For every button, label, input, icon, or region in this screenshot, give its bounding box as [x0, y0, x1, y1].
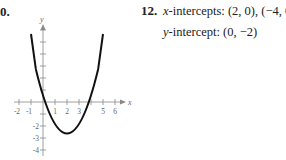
x-axis-arrow-icon: [120, 100, 126, 105]
parabola-chart: x y -2-1 12 35 6 -2-3-4: [0, 0, 286, 160]
parabola-curve: [36, 34, 103, 133]
svg-text:6: 6: [113, 107, 117, 116]
x-axis-label: x: [127, 98, 132, 107]
svg-text:1: 1: [53, 107, 57, 116]
axes: [14, 26, 120, 156]
y-axis-arrow-icon: [41, 24, 46, 30]
svg-text:-2: -2: [14, 107, 20, 116]
svg-text:5: 5: [101, 107, 105, 116]
x-tick-labels: -2-1 12 35 6: [14, 107, 117, 116]
svg-text:-3: -3: [33, 134, 39, 143]
svg-text:-2: -2: [33, 122, 39, 131]
svg-text:-4: -4: [33, 146, 39, 155]
y-axis-label: y: [39, 15, 44, 24]
y-tick-labels: -2-3-4: [33, 122, 39, 155]
svg-text:-1: -1: [26, 107, 32, 116]
svg-text:2: 2: [65, 107, 69, 116]
svg-text:3: 3: [77, 107, 81, 116]
parabola-left-arm: [31, 34, 36, 69]
